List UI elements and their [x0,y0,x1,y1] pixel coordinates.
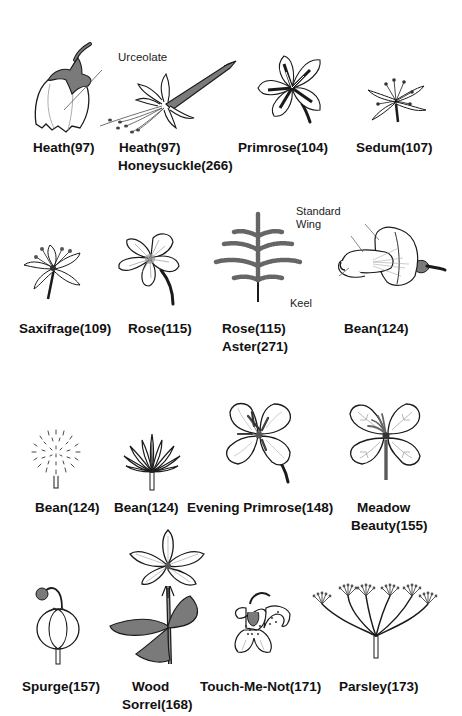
label-rose-115: Rose(115) [128,320,192,337]
primrose-illustration [256,52,326,124]
label-honeysuckle-266: Honeysuckle(266) [118,157,233,174]
bean-mimosa-illustration [122,432,182,492]
label-sorrel-168: Sorrel(168) [122,696,193,713]
label-bean-124-c: Bean(124) [114,499,179,516]
label-evening-primrose-148: Evening Primrose(148) [187,499,333,516]
spurge-illustration [34,584,82,666]
rose-aster-illustration [212,210,304,304]
label-spurge-157: Spurge(157) [22,678,100,695]
papilionaceous-flower-icon [325,226,450,296]
saxifrage-illustration [22,243,84,303]
label-saxifrage-109: Saxifrage(109) [19,320,111,337]
touch-me-not-illustration [230,590,298,654]
label-aster-271: Aster(271) [222,338,288,355]
evening-primrose-flower-icon [222,398,298,484]
primrose-flower-icon [256,52,326,124]
clover-head-icon [30,428,84,490]
bean-papilionaceous-illustration [325,226,450,296]
rose-illustration [113,228,183,306]
label-bean-124-b: Bean(124) [35,499,100,516]
label-wood: Wood [132,678,169,695]
evening-primrose-illustration [222,398,298,484]
umbel-inflorescence-icon [310,584,444,658]
label-meadow: Meadow [357,499,410,516]
spike-inflorescence-icon [212,210,304,304]
wood-sorrel-icon [106,530,208,666]
keel-annotation: Keel [290,297,312,310]
touch-me-not-flower-icon [230,590,298,654]
standard-annotation: Standard [296,205,341,218]
label-parsley-173: Parsley(173) [339,678,419,695]
saxifrage-flower-icon [22,243,84,303]
tubular-flower-icon [96,56,241,136]
label-heath-97: Heath(97) [33,139,95,156]
wing-annotation: Wing [296,218,321,231]
honeysuckle-illustration [96,56,241,136]
label-heath-97-b: Heath(97) [119,139,181,156]
label-bean-124-a: Bean(124) [344,320,409,337]
meadow-beauty-illustration [344,400,426,482]
rose-flower-icon [113,228,183,306]
mimosa-flower-icon [122,432,182,492]
bean-head-illustration [30,428,84,490]
parsley-illustration [310,584,444,658]
sedum-illustration [366,76,428,124]
label-touch-me-not-171: Touch-Me-Not(171) [200,678,321,695]
spurge-capsule-icon [34,584,82,666]
label-rose-115-b: Rose(115) [222,320,286,337]
sedum-flower-icon [366,76,428,124]
label-beauty-155: Beauty(155) [351,517,428,534]
label-primrose-104: Primrose(104) [238,139,328,156]
meadow-beauty-flower-icon [344,400,426,482]
wood-sorrel-illustration [106,530,208,666]
label-sedum-107: Sedum(107) [356,139,433,156]
